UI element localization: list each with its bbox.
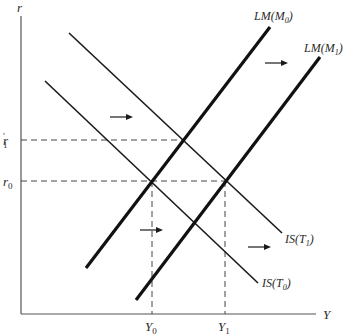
y1-label: Y1 [218, 319, 230, 336]
x-axis-label: Y [323, 307, 332, 322]
y0-label: Y0 [145, 319, 157, 336]
is-t0-label: IS(T0) [261, 276, 291, 292]
lm-m1-curve [136, 57, 320, 300]
is-t1-label: IS(T1) [284, 232, 314, 248]
arrow-right-icon [265, 60, 288, 66]
r0-label: r0 [3, 174, 13, 191]
reference-lines [21, 140, 225, 314]
lm-m0-curve [86, 27, 270, 268]
y-axis-label: r [17, 0, 23, 15]
lm-m1-label: LM(M1) [303, 41, 343, 57]
tick-labels: r′1 r0 Y0 Y1 [3, 131, 230, 336]
lm-m0-label: LM(M0) [253, 9, 293, 25]
axes: r Y [17, 0, 332, 322]
lm-curves [86, 27, 320, 300]
arrow-right-icon [248, 244, 271, 250]
arrow-right-icon [110, 114, 133, 120]
curve-labels: LM(M0) LM(M1) IS(T1) IS(T0) [253, 9, 343, 292]
is-lm-diagram: r Y r′1 r0 Y0 Y1 LM(M0) [0, 0, 345, 336]
r1-prime-label: r′1 [3, 131, 9, 150]
is-curves [45, 33, 282, 283]
